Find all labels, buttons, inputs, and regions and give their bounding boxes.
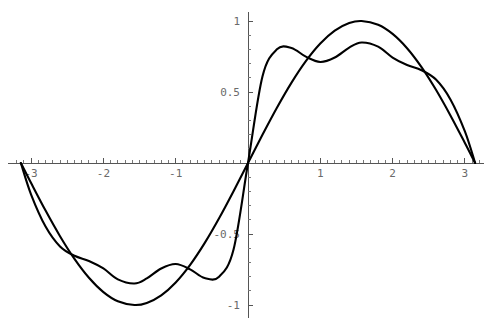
y-axis-tick-label: -1 bbox=[227, 299, 240, 312]
y-axis-tick-label: 0.5 bbox=[220, 86, 240, 99]
x-axis-tick-label: -1 bbox=[169, 167, 182, 180]
chart-svg: -3-2-1123-1-0.50.51 bbox=[0, 0, 491, 325]
x-axis-tick-label: 1 bbox=[317, 167, 324, 180]
x-axis-tick-label: -2 bbox=[97, 167, 110, 180]
x-axis-tick-label: 3 bbox=[462, 167, 469, 180]
plot-canvas: -3-2-1123-1-0.50.51 bbox=[0, 0, 491, 325]
x-axis-tick-label: 2 bbox=[389, 167, 396, 180]
y-axis-tick-label: 1 bbox=[233, 15, 240, 28]
